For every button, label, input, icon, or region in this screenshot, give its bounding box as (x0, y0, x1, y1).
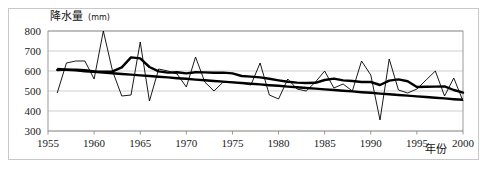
y-axis-unit: (mm) (88, 13, 110, 22)
x-axis-title: 年份 (425, 142, 447, 156)
y-axis-title: 降水量 (50, 9, 83, 23)
precipitation-chart: 300400500600700800 195519601965197019751… (0, 0, 487, 174)
chart-text-layer: 降水量 (mm) 年份 (0, 0, 487, 174)
